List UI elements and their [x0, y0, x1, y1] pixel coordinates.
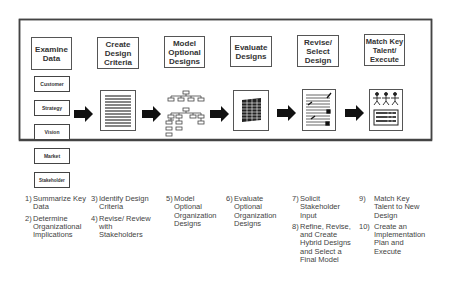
- step-item: 8)Refine, Revise, and Create Hybrid Desi…: [292, 223, 354, 264]
- phase-evaluate-designs: Evaluate Designs: [230, 36, 272, 67]
- steps-column-3: 5)Model Optional Organization Designs: [166, 195, 218, 231]
- phase-examine-data: Examine Data: [31, 37, 72, 70]
- phase-match-key-talent: Match Key Talent/ Execute: [364, 34, 405, 66]
- step-item: 6)Evaluate Optional Organization Designs: [226, 195, 282, 228]
- stacked-grid-icon: [233, 90, 269, 131]
- arrow-right-icon: [277, 105, 296, 121]
- category-vision: Vision: [34, 124, 70, 140]
- step-item: 9)Match Key Talent to New Design: [359, 195, 425, 220]
- category-stakeholder: Stakeholder: [34, 172, 70, 188]
- steps-column-6: 9)Match Key Talent to New Design 10)Crea…: [359, 195, 425, 259]
- phase-create-design-criteria: Create Design Criteria: [97, 37, 139, 69]
- document-lines-icon: [100, 90, 136, 131]
- step-item: 10)Create an Implementation Plan and Exe…: [359, 223, 425, 256]
- checked-document-icon: [302, 89, 336, 131]
- arrow-right-icon: [210, 106, 229, 122]
- arrow-right-icon: [345, 105, 364, 121]
- steps-column-4: 6)Evaluate Optional Organization Designs: [226, 195, 282, 231]
- steps-column-1: 1)Summarize Key Data 2)Determine Organiz…: [25, 195, 87, 242]
- phase-revise-select-design: Revise/ Select Design: [297, 35, 339, 67]
- phase-model-optional-designs: Model Optional Designs: [164, 36, 205, 68]
- step-item: 4)Revise/ Review with Stakeholders: [91, 215, 153, 240]
- step-item: 7)Solicit Stakeholder Input: [292, 195, 354, 220]
- arrow-right-icon: [142, 106, 161, 122]
- org-chart-icon: [165, 90, 207, 140]
- steps-column-2: 3)Identify Design Criteria 4)Revise/ Rev…: [91, 195, 153, 242]
- step-item: 2)Determine Organizational Implications: [25, 215, 87, 240]
- category-strategy: Strategy: [34, 100, 70, 116]
- category-customer: Customer: [34, 76, 70, 92]
- step-item: 5)Model Optional Organization Designs: [166, 195, 218, 228]
- arrow-right-icon: [74, 106, 93, 122]
- steps-column-5: 7)Solicit Stakeholder Input 8)Refine, Re…: [292, 195, 354, 267]
- step-item: 1)Summarize Key Data: [25, 195, 87, 212]
- people-board-icon: [369, 89, 403, 131]
- step-item: 3)Identify Design Criteria: [91, 195, 153, 212]
- category-market: Market: [34, 148, 70, 164]
